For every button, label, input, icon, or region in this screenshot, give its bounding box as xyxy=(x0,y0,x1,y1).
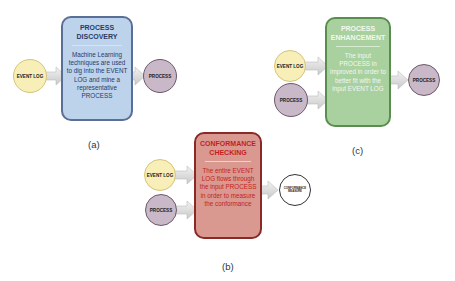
caption-c: (c) xyxy=(352,145,363,156)
box-title: PROCESS ENHANCEMENT xyxy=(330,25,386,42)
divider xyxy=(336,46,380,47)
node-label: PROCESS xyxy=(413,78,435,83)
caption-b: (b) xyxy=(222,261,234,272)
process-input-node: PROCESS xyxy=(145,194,177,226)
box-description: The entire EVENT LOG flows through the i… xyxy=(199,167,257,208)
process-discovery-box: PROCESS DISCOVERY Machine Learning techn… xyxy=(61,16,133,121)
node-label: EVENT LOG xyxy=(277,64,304,69)
process-output-node: PROCESS xyxy=(143,59,177,93)
node-label: EVENT LOG xyxy=(17,74,44,79)
divider xyxy=(72,45,122,46)
node-label: PROCESS xyxy=(280,98,302,103)
node-label: EVENT LOG xyxy=(147,173,174,178)
box-description: The input PROCESS in improved in order t… xyxy=(330,52,386,93)
divider xyxy=(205,161,251,162)
conformance-checking-box: CONFORMANCE CHECKING The entire EVENT LO… xyxy=(194,132,262,239)
box-description: Machine Learning techniques are used to … xyxy=(66,51,128,100)
process-enhancement-box: PROCESS ENHANCEMENT The input PROCESS in… xyxy=(325,17,391,127)
node-label: PROCESS xyxy=(150,208,172,213)
process-input-node: PROCESS xyxy=(274,83,308,117)
node-label: PROCESS xyxy=(149,74,171,79)
caption-a: (a) xyxy=(88,139,100,150)
node-label: CONFORMANCE MEASURE xyxy=(280,187,310,194)
process-output-node: PROCESS xyxy=(408,64,440,96)
box-title: CONFORMANCE CHECKING xyxy=(199,140,257,157)
conformance-measure-node: CONFORMANCE MEASURE xyxy=(279,174,311,206)
event-log-node: EVENT LOG xyxy=(144,159,176,191)
event-log-node: EVENT LOG xyxy=(274,50,306,82)
box-title: PROCESS DISCOVERY xyxy=(66,24,128,41)
event-log-node: EVENT LOG xyxy=(13,59,47,93)
